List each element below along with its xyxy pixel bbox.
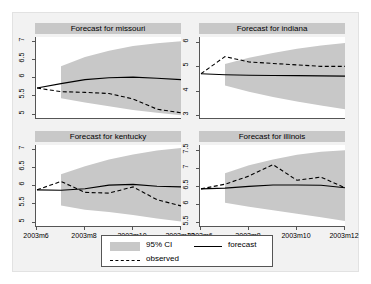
y-tick-mark <box>196 222 199 223</box>
y-tick-label: 5 <box>18 102 25 122</box>
y-tick-mark <box>196 168 199 169</box>
y-tick-mark <box>32 77 35 78</box>
y-tick-mark <box>32 59 35 60</box>
panel-indiana: Forecast for indiana6543 <box>199 23 345 130</box>
series-layer-indiana <box>200 37 346 119</box>
series-layer-illinois <box>200 145 346 227</box>
y-tick-label: 5 <box>182 55 189 75</box>
y-tick-label: 6.5 <box>182 175 189 195</box>
y-tick-label: 5.5 <box>18 84 25 104</box>
y-tick-mark <box>32 167 35 168</box>
legend-line-observed <box>110 260 140 261</box>
y-tick-mark <box>196 91 199 92</box>
x-tick-label: 2003m12 <box>323 232 365 239</box>
y-tick-label: 6.5 <box>18 47 25 67</box>
forecast-figure: Forecast for missouri76.565.55Forecast f… <box>12 12 359 272</box>
legend-label-forecast: forecast <box>228 240 256 249</box>
panel-illinois: Forecast for illinois7.576.565.52003m620… <box>199 131 345 238</box>
y-tick-mark <box>32 185 35 186</box>
y-tick-label: 7 <box>18 137 25 157</box>
panel-missouri: Forecast for missouri76.565.55 <box>35 23 181 130</box>
x-tick-label: 2003m10 <box>275 232 317 239</box>
y-tick-label: 3 <box>182 104 189 124</box>
y-tick-label: 4 <box>182 79 189 99</box>
x-tick-mark <box>296 227 297 230</box>
legend-label-ci: 95% CI <box>146 240 172 249</box>
panel-kentucky: Forecast for kentucky76.565.552003m62003… <box>35 131 181 238</box>
y-tick-mark <box>32 95 35 96</box>
panel-title-missouri: Forecast for missouri <box>35 23 181 34</box>
y-tick-label: 5 <box>18 210 25 230</box>
y-tick-mark <box>196 204 199 205</box>
y-tick-mark <box>196 42 199 43</box>
y-tick-label: 5.5 <box>182 210 189 230</box>
plot-area-illinois <box>199 145 345 227</box>
series-layer-missouri <box>36 37 182 119</box>
panel-title-kentucky: Forecast for kentucky <box>35 131 181 142</box>
legend-swatch-ci <box>110 242 140 251</box>
plot-area-kentucky <box>35 145 181 227</box>
panel-title-indiana: Forecast for indiana <box>199 23 345 34</box>
plot-area-indiana <box>199 37 345 119</box>
y-tick-label: 6.5 <box>18 155 25 175</box>
y-tick-label: 6 <box>182 192 189 212</box>
chart-legend: 95% CIforecastobserved <box>101 235 273 267</box>
y-tick-mark <box>32 149 35 150</box>
x-tick-label: 2003m8 <box>63 232 105 239</box>
y-tick-mark <box>32 203 35 204</box>
series-layer-kentucky <box>36 145 182 227</box>
x-tick-mark <box>36 227 37 230</box>
y-tick-label: 6 <box>182 30 189 50</box>
y-tick-mark <box>32 222 35 223</box>
panel-title-illinois: Forecast for illinois <box>199 131 345 142</box>
plot-area-missouri <box>35 37 181 119</box>
legend-line-forecast <box>194 246 222 247</box>
x-tick-label: 2003m6 <box>15 232 57 239</box>
legend-label-observed: observed <box>146 254 179 263</box>
x-tick-mark <box>132 227 133 230</box>
y-tick-mark <box>196 115 199 116</box>
y-tick-mark <box>196 186 199 187</box>
x-tick-mark <box>200 227 201 230</box>
y-tick-label: 7 <box>18 29 25 49</box>
y-tick-mark <box>32 41 35 42</box>
y-tick-mark <box>196 66 199 67</box>
x-tick-mark <box>84 227 85 230</box>
x-tick-mark <box>344 227 345 230</box>
y-tick-label: 5.5 <box>18 192 25 212</box>
y-tick-mark <box>196 150 199 151</box>
x-tick-mark <box>248 227 249 230</box>
y-tick-mark <box>32 114 35 115</box>
